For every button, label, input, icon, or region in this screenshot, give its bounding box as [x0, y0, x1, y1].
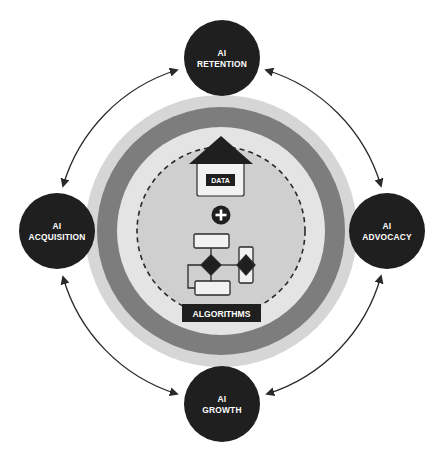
flow-process-top [194, 234, 229, 248]
node-acquisition-line2: ACQUISITION [28, 232, 85, 242]
algorithms-tag: ALGORITHMS [182, 304, 261, 322]
node-growth-line2: GROWTH [202, 405, 241, 415]
core-rings [85, 95, 357, 367]
node-growth: AI GROWTH [184, 366, 260, 442]
node-advocacy-line2: ADVOCACY [362, 232, 412, 242]
ai-cycle-diagram: DATA ALGORITHMS AI RETENTION AI ADVOCACY… [0, 0, 443, 465]
algorithms-label: ALGORITHMS [193, 309, 251, 319]
node-acquisition: AI ACQUISITION [19, 193, 95, 269]
node-growth-line1: AI [218, 394, 227, 404]
node-retention-line2: RETENTION [197, 59, 247, 69]
node-acquisition-line1: AI [53, 221, 62, 231]
node-retention: AI RETENTION [184, 20, 260, 96]
data-label: DATA [211, 177, 229, 184]
node-advocacy-line1: AI [383, 221, 392, 231]
node-advocacy: AI ADVOCACY [349, 193, 425, 269]
node-retention-line1: AI [218, 48, 227, 58]
plus-icon [212, 206, 231, 225]
flow-process-bottom [195, 281, 230, 295]
